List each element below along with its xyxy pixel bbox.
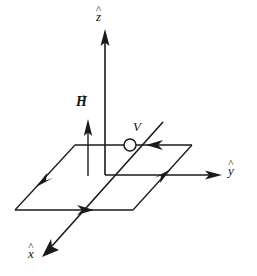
H-vector-group bbox=[84, 119, 92, 176]
x-axis-group bbox=[42, 122, 163, 257]
coordinate-diagram-svg bbox=[0, 0, 257, 276]
voltage-source-group bbox=[124, 139, 136, 151]
current-loop-group bbox=[15, 140, 192, 215]
z-axis-group bbox=[101, 29, 110, 175]
H-vector-label: → H bbox=[76, 95, 87, 109]
voltage-source-label: V bbox=[133, 120, 141, 133]
figure-canvas: ^ z ^ y ^ x → H V bbox=[0, 0, 257, 276]
x-axis-label: ^ x bbox=[28, 247, 34, 260]
H-vector-arrow-accent: → bbox=[75, 88, 87, 100]
z-axis-label: ^ z bbox=[96, 10, 101, 23]
x-axis-line bbox=[52, 122, 163, 246]
loop-edge-right-arrowhead bbox=[154, 169, 171, 183]
x-axis-hat-accent: ^ bbox=[28, 241, 33, 252]
voltage-source-circle bbox=[124, 139, 136, 151]
z-axis-hat-accent: ^ bbox=[96, 4, 101, 15]
loop-edge-left-arrowhead bbox=[36, 173, 53, 187]
y-axis-label: ^ y bbox=[228, 164, 234, 177]
y-axis-hat-accent: ^ bbox=[228, 158, 233, 169]
